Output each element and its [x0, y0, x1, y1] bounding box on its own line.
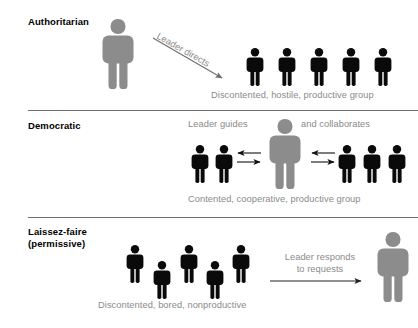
section-label-laissez-faire: Laissez-faire: [28, 226, 87, 238]
annotation-line-1: Leader responds: [285, 252, 356, 262]
person-figure-member-icon: [179, 245, 199, 283]
member-figure: [152, 261, 172, 299]
person-figure-member-icon: [337, 145, 357, 183]
annotation-line-2: to requests: [297, 264, 344, 274]
caption-laissez-faire: Discontented, bored, nonproductive: [98, 300, 246, 310]
caption-authoritarian: Discontented, hostile, productive group: [211, 90, 374, 100]
arrow-bidirectional-left-icon: [236, 149, 262, 169]
arrow-bidirectional-right-icon: [310, 149, 336, 169]
caption-democratic: Contented, cooperative, productive group: [188, 194, 361, 204]
person-figure-member-icon: [214, 145, 234, 183]
person-figure-member-icon: [205, 261, 225, 299]
person-figure-member-icon: [309, 48, 329, 86]
member-figure: [277, 48, 297, 86]
member-figure: [190, 145, 210, 183]
member-figure: [214, 145, 234, 183]
person-figure-member-icon: [341, 48, 361, 86]
member-figure: [341, 48, 361, 86]
person-figure-leader-icon: [263, 119, 307, 189]
member-figure: [337, 145, 357, 183]
person-figure-member-icon: [152, 261, 172, 299]
section-label-authoritarian: Authoritarian: [28, 16, 89, 28]
annotation-leader-responds: Leader responds to requests: [272, 252, 368, 275]
leader-figure-laissez-faire: [371, 232, 415, 302]
leader-figure-democratic: [263, 119, 307, 189]
leader-figure-authoritarian: [96, 19, 140, 89]
leadership-styles-diagram: Authoritarian Leader directs: [0, 0, 418, 328]
section-label-laissez-faire-sub: (permissive): [28, 238, 85, 250]
person-figure-member-icon: [245, 48, 265, 86]
member-figure: [205, 261, 225, 299]
member-figure: [245, 48, 265, 86]
member-figure: [362, 145, 382, 183]
section-label-democratic: Democratic: [28, 120, 81, 132]
person-figure-member-icon: [277, 48, 297, 86]
person-figure-leader-icon: [371, 232, 415, 302]
arrow-leader-responds-icon: [269, 275, 367, 287]
person-figure-member-icon: [387, 145, 407, 183]
member-figure: [309, 48, 329, 86]
divider-2: [28, 217, 418, 218]
person-figure-member-icon: [373, 48, 393, 86]
person-figure-member-icon: [125, 245, 145, 283]
person-figure-leader-icon: [96, 19, 140, 89]
divider-1: [28, 110, 418, 111]
member-figure: [231, 245, 251, 283]
annotation-and-collaborates: and collaborates: [301, 119, 370, 129]
member-figure: [179, 245, 199, 283]
annotation-leader-guides: Leader guides: [188, 119, 248, 129]
person-figure-member-icon: [362, 145, 382, 183]
member-figure: [373, 48, 393, 86]
person-figure-member-icon: [190, 145, 210, 183]
person-figure-member-icon: [231, 245, 251, 283]
member-figure: [125, 245, 145, 283]
member-figure: [387, 145, 407, 183]
